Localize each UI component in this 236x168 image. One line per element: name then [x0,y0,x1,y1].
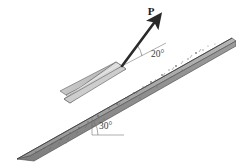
block-highlight-edge [67,64,119,96]
force-vector-p: P 20° [122,5,166,66]
force-angle-label: 20° [151,49,165,59]
incline-speckle [28,156,29,157]
incline-speckle [156,86,157,87]
inclined-plane-diagram-canvas: P 20° 30° [0,0,236,168]
incline-speckle [207,45,208,46]
incline-speckle [103,118,104,119]
incline-speckle [97,115,99,117]
incline-speckle [150,81,152,83]
incline-speckle [195,52,197,54]
incline-tick [172,67,174,70]
incline-speckle [181,69,182,70]
incline-speckle [43,147,44,148]
block-on-incline [60,62,126,103]
incline-angle-label: 30° [99,121,113,131]
incline-speckle [168,69,169,70]
incline-speckle [187,58,189,60]
incline-speckle [60,138,62,140]
incline-speckle [139,97,140,98]
incline-speckle [175,65,177,67]
incline-speckle [215,44,216,45]
incline-tick [181,61,183,64]
incline-speckle [69,132,70,133]
inclined-plane [17,38,236,161]
incline-speckle [125,97,126,98]
incline-speckle [202,49,203,50]
incline-speckle [51,143,52,144]
incline-tick [199,49,201,52]
incline-speckle [116,103,118,105]
incline-speckle [171,77,172,78]
force-label-p: P [148,5,155,17]
incline-top-edge [17,38,232,159]
incline-tick [190,55,192,58]
incline-speckle [66,143,67,144]
force-arrow [122,23,154,66]
incline-speckle [133,92,135,94]
incline-speckle [142,86,143,87]
incline-speckle [92,125,93,126]
incline-speckle [78,127,80,129]
incline-speckle [35,151,37,153]
incline-speckle [108,108,109,109]
incline-speckle [161,74,163,76]
physics-diagram-figure: P 20° 30° [0,0,236,168]
incline-speckle [87,121,89,123]
